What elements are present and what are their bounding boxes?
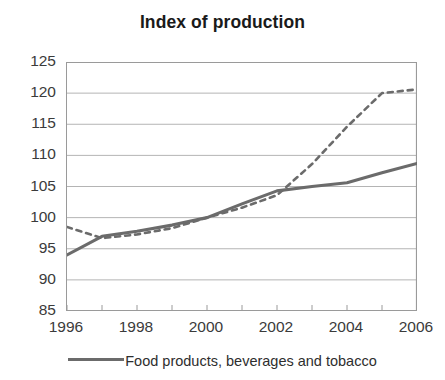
- chart-title: Index of production: [0, 12, 445, 33]
- legend-label-food-products: Food products, beverages and tobacco: [125, 353, 377, 369]
- x-axis-tick-label-2002: 2002: [246, 318, 306, 336]
- y-axis-tick-label-110: 110: [14, 145, 56, 163]
- y-axis-tick-label-85: 85: [14, 301, 56, 319]
- series-line-secondary: [67, 89, 417, 238]
- legend-line-swatch-food-products: [68, 358, 124, 361]
- y-axis-tick-label-125: 125: [14, 52, 56, 70]
- x-axis-tick-label-2000: 2000: [176, 318, 236, 336]
- y-axis-tick-label-100: 100: [14, 208, 56, 226]
- x-axis-tick-label-1996: 1996: [36, 318, 96, 336]
- y-axis-tick-label-90: 90: [14, 270, 56, 288]
- x-axis-tick-label-1998: 1998: [106, 318, 166, 336]
- y-axis-tick-label-120: 120: [14, 83, 56, 101]
- y-axis-tick-label-95: 95: [14, 239, 56, 257]
- series-line-food-products: [67, 163, 417, 255]
- x-axis-tick-label-2006: 2006: [386, 318, 445, 336]
- plot-area: [66, 62, 416, 311]
- chart-container: Index of production 12512011511010510095…: [0, 0, 445, 380]
- chart-legend: Food products, beverages and tobacco: [0, 352, 445, 369]
- y-axis-tick-label-115: 115: [14, 114, 56, 132]
- x-axis-tick-label-2004: 2004: [316, 318, 376, 336]
- y-axis-tick-label-105: 105: [14, 177, 56, 195]
- chart-svg: [67, 62, 417, 311]
